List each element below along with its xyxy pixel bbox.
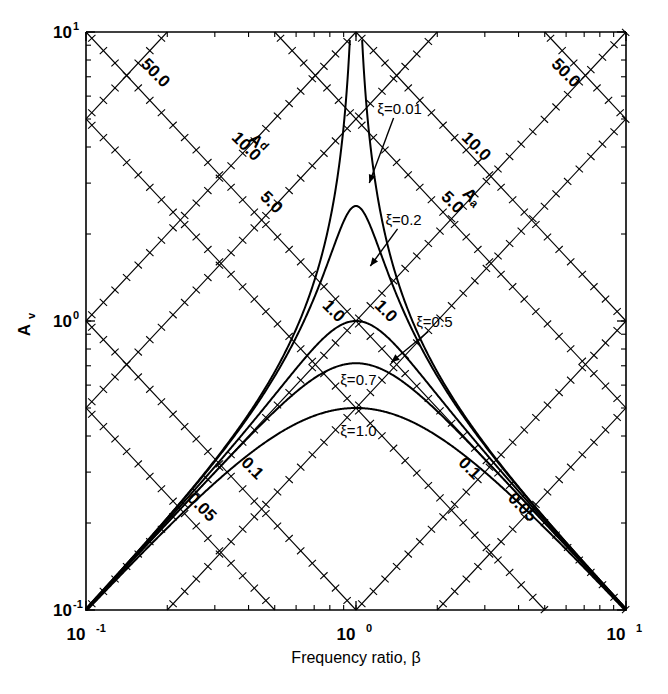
displacement-grid-label: 50.0 — [548, 54, 585, 91]
series-annotation-02: ξ=0.2 — [385, 211, 421, 228]
acceleration-grid-label: 0.1 — [455, 453, 485, 483]
x-tick-label: 101 — [607, 622, 643, 644]
y-axis-title-subscript: v — [25, 312, 37, 319]
tick-mantissa: 10 — [67, 625, 86, 644]
x-tick-label: 10-1 — [67, 622, 106, 644]
series-annotations: ξ=0.01ξ=0.2ξ=0.5ξ=0.7ξ=1.0 — [340, 100, 452, 439]
acceleration-grid-label: 50.0 — [137, 54, 174, 91]
displacement-grid-label: 0.1 — [237, 453, 267, 483]
tick-exponent: 1 — [73, 20, 79, 32]
tick-mantissa: 10 — [607, 625, 626, 644]
y-tick-label: 10-1 — [53, 598, 83, 620]
tick-mantissa: 10 — [53, 23, 72, 42]
tick-exponent: -1 — [73, 598, 83, 610]
series-annotation-001: ξ=0.01 — [377, 100, 422, 117]
y-axis-title: A v — [15, 312, 37, 336]
y-tick-label: 100 — [53, 309, 79, 331]
series-annotation-07: ξ=0.7 — [340, 371, 376, 388]
tick-exponent: -1 — [96, 622, 106, 634]
x-tick-label: 100 — [337, 622, 373, 644]
curve-damping-0_5 — [86, 321, 626, 609]
tick-exponent: 0 — [73, 309, 79, 321]
curve-damping-0_7 — [86, 363, 626, 610]
tick-mantissa: 10 — [337, 625, 356, 644]
y-axis-title-text: A — [15, 324, 34, 336]
damping-ratio-curves — [86, 41, 626, 610]
displacement-grid-label: 10.0 — [458, 128, 495, 165]
y-tick-label: 101 — [53, 20, 79, 42]
tick-exponent: 0 — [366, 622, 372, 634]
leader-line — [369, 118, 393, 183]
diagonal-grid-labels: 0.050.11.05.010.050.00.050.11.05.010.050… — [137, 54, 584, 525]
tick-exponent: 1 — [636, 622, 642, 634]
acceleration-grid-label: 5.0 — [256, 187, 286, 217]
x-axis-title: Frequency ratio, β — [291, 649, 420, 666]
leader-arrowhead — [370, 257, 378, 266]
tick-mantissa: 10 — [53, 312, 72, 331]
tripartite-response-spectrum-chart: 0.050.11.05.010.050.00.050.11.05.010.050… — [0, 0, 668, 694]
figure-container: 0.050.11.05.010.050.00.050.11.05.010.050… — [0, 0, 668, 694]
series-annotation-10: ξ=1.0 — [340, 422, 376, 439]
acceleration-grid-label: 1.0 — [319, 296, 349, 326]
tick-mantissa: 10 — [53, 601, 72, 620]
series-annotation-05: ξ=0.5 — [416, 313, 452, 330]
x-axis-title-text: Frequency ratio, β — [291, 649, 420, 666]
